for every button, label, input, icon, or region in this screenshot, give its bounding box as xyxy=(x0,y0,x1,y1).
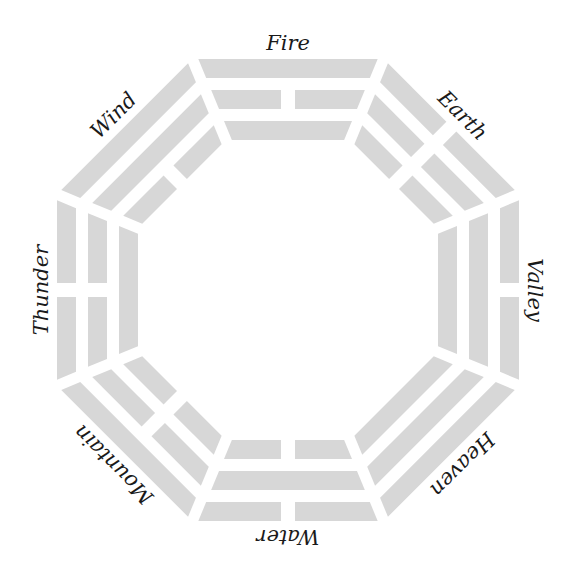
outer-broken-line-left xyxy=(295,502,378,521)
middle-solid-line xyxy=(469,213,488,367)
trigram-label-valley: Valley xyxy=(523,258,547,323)
outer-broken-line-right xyxy=(500,297,519,380)
middle-broken-line-left xyxy=(88,297,107,367)
outer-broken-line-left xyxy=(57,297,76,380)
outer-broken-line-left xyxy=(500,200,519,283)
inner-broken-line-left xyxy=(295,440,352,459)
trigram-thunder: Thunder xyxy=(29,200,138,379)
trigram-label-thunder: Thunder xyxy=(29,243,53,335)
trigram-ring: FireEarthValleyHeavenWaterMountainThunde… xyxy=(29,31,547,549)
outer-solid-line xyxy=(198,59,377,78)
trigram-valley: Valley xyxy=(438,200,547,379)
middle-broken-line-right xyxy=(295,90,365,109)
middle-broken-line-right xyxy=(88,213,107,283)
middle-solid-line xyxy=(211,471,365,490)
outer-broken-line-right xyxy=(198,502,281,521)
trigram-fire: Fire xyxy=(198,31,377,140)
bagua-diagram: FireEarthValleyHeavenWaterMountainThunde… xyxy=(0,0,568,581)
inner-solid-line xyxy=(119,226,138,354)
inner-solid-line xyxy=(438,226,457,354)
trigram-label-earth: Earth xyxy=(432,85,492,145)
trigram-label-water: Water xyxy=(254,525,319,549)
inner-broken-line-right xyxy=(224,440,281,459)
outer-broken-line-right xyxy=(57,200,76,283)
middle-broken-line-left xyxy=(211,90,281,109)
inner-solid-line xyxy=(224,121,352,140)
trigram-label-fire: Fire xyxy=(265,31,310,55)
trigram-water: Water xyxy=(198,440,377,549)
